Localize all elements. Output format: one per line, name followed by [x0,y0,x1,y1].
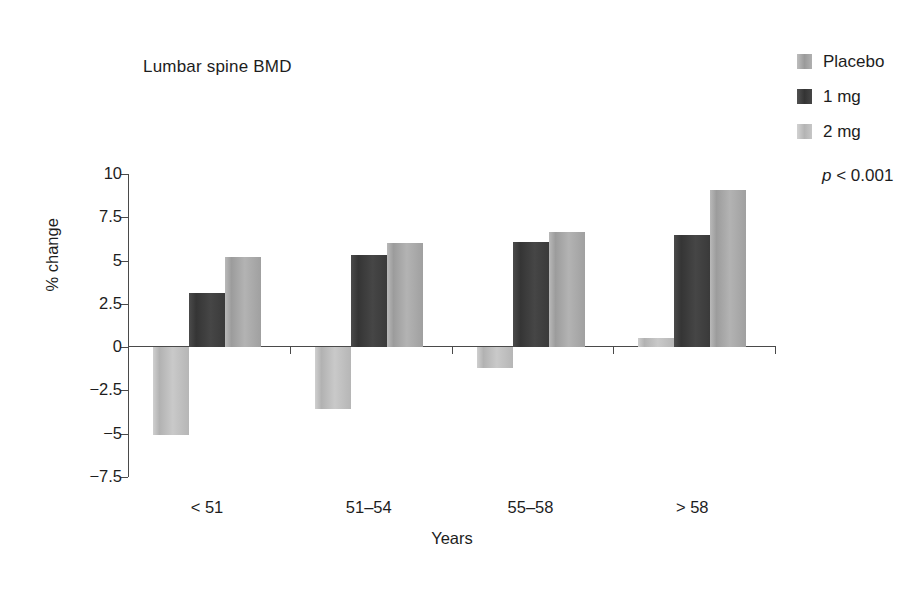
legend-item[interactable]: 1 mg [797,79,884,114]
bar [225,257,261,347]
legend-label: 2 mg [823,122,861,142]
x-axis-label: 51–54 [346,498,392,517]
legend-swatch-icon [797,54,812,69]
y-tick-label: 7.5 [99,207,122,226]
bar [153,347,189,435]
y-tick-mark [121,261,128,262]
y-tick-mark [121,477,128,478]
p-value-annotation: p < 0.001 [822,166,893,186]
bar [638,338,674,347]
y-tick-label: 0 [113,337,122,356]
bar [351,255,387,348]
x-tick-mark [290,346,291,354]
x-tick-mark [613,346,614,354]
x-tick-mark [128,346,129,354]
y-tick-mark [121,174,128,175]
y-axis-title: % change [43,264,62,292]
bar [477,347,513,368]
legend-label: Placebo [823,52,884,72]
y-tick-mark [121,434,128,435]
x-axis-label: 55–58 [508,498,554,517]
x-tick-mark [775,346,776,354]
x-axis-label: < 51 [191,498,224,517]
bar [189,293,225,347]
plot-area: 107.552.50−2.5−5−7.5 [128,174,775,477]
y-tick-label: −5 [103,424,122,443]
y-tick-mark [121,347,128,348]
y-tick-label: 5 [113,251,122,270]
legend: Placebo1 mg2 mg [797,44,884,149]
y-tick-label: −2.5 [89,380,122,399]
bar [315,347,351,409]
x-axis-label: > 58 [676,498,709,517]
y-tick-mark [121,304,128,305]
bar [549,232,585,347]
legend-label: 1 mg [823,87,861,107]
bar [710,190,746,348]
y-tick-label: 10 [104,164,122,183]
legend-item[interactable]: Placebo [797,44,884,79]
y-axis-line [128,174,129,477]
bar [387,243,423,347]
y-tick-label: 2.5 [99,294,122,313]
chart-title: Lumbar spine BMD [143,57,292,77]
y-tick-label: −7.5 [89,467,122,486]
y-tick-mark [121,217,128,218]
p-value-text: < 0.001 [831,166,893,185]
legend-item[interactable]: 2 mg [797,114,884,149]
bar [674,235,710,348]
bar [513,242,549,348]
figure-lumbar-spine-bmd: Lumbar spine BMD % change 107.552.50−2.5… [0,0,909,590]
x-tick-mark [452,346,453,354]
x-axis-title: Years [431,529,473,548]
legend-swatch-icon [797,89,812,104]
legend-swatch-icon [797,124,812,139]
y-tick-mark [121,390,128,391]
